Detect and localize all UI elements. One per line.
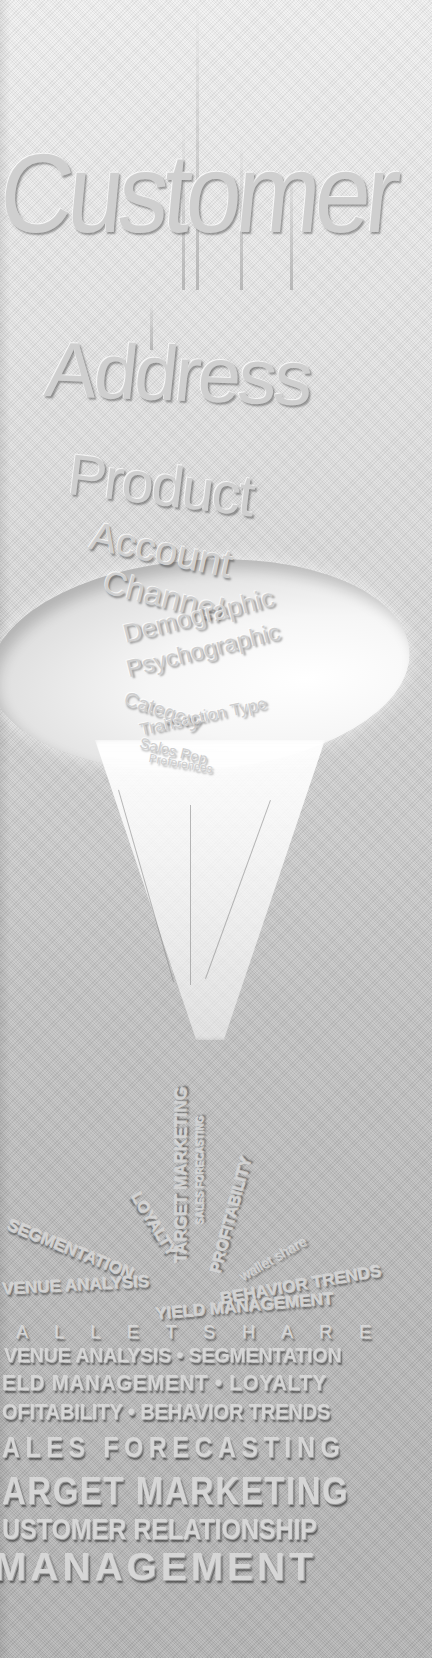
- line-customer-relationship: USTOMER RELATIONSHIP: [2, 1515, 317, 1544]
- word-target-marketing: TARGET MARKETING: [172, 1087, 189, 1263]
- funnel-wire: [190, 805, 191, 985]
- line-wallet-share: A L L E T S H A R E: [16, 1323, 382, 1341]
- word-sales-forecasting: SALES FORECASTING: [195, 1116, 205, 1225]
- line-revenue-segmentation: VENUE ANALYSIS • SEGMENTATION: [4, 1344, 341, 1365]
- line-management: MANAGEMENT: [0, 1548, 317, 1586]
- word-customer: Customer: [0, 138, 400, 250]
- line-yield-loyalty: ELD MANAGEMENT • LOYALTY: [2, 1372, 327, 1394]
- line-sales-forecasting: ALES FORECASTING: [2, 1432, 345, 1462]
- cover-art: Customer Address Product Account Channel…: [0, 0, 432, 1658]
- line-profitability-behavior: OFITABILITY • BEHAVIOR TRENDS: [2, 1401, 330, 1423]
- line-target-marketing: ARGET MARKETING: [2, 1472, 349, 1510]
- word-address: Address: [42, 330, 315, 417]
